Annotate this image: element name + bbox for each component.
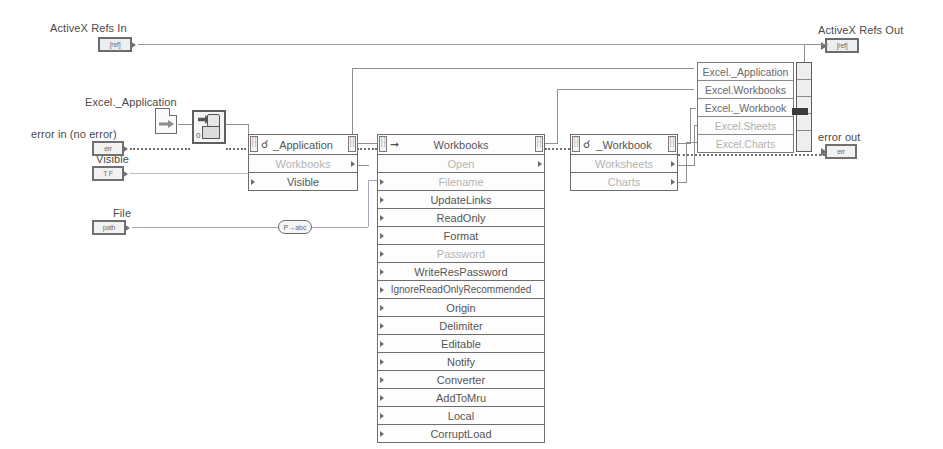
workbooks-row-password[interactable]: Password: [378, 245, 544, 263]
wire-worksheets-riser: [694, 125, 695, 166]
activex-class-list-constant[interactable]: Excel._Application Excel.Workbooks Excel…: [697, 62, 794, 153]
property-node-icon: ☌: [583, 138, 597, 150]
terminal-out[interactable]: [351, 161, 355, 167]
workbooks-row-converter-label: Converter: [437, 374, 485, 386]
application-row-visible-label: Visible: [287, 176, 319, 188]
terminal-in[interactable]: [380, 287, 384, 293]
excel-application-class-constant[interactable]: [155, 108, 177, 134]
doc-corner-fold: [169, 108, 177, 116]
activex-refs-in-terminal[interactable]: [ref]: [98, 37, 132, 52]
workbooks-row-updatelinks-label: UpdateLinks: [430, 194, 491, 206]
workbooks-row-corruptload[interactable]: CorruptLoad: [378, 425, 544, 442]
bundle-tick: [797, 96, 811, 97]
workbooks-row-open[interactable]: Open: [378, 155, 544, 173]
workbook-row-charts-label: Charts: [608, 176, 640, 188]
workbooks-row-readonly[interactable]: ReadOnly: [378, 209, 544, 227]
node-ref-out-terminal[interactable]: [ ][ ]: [668, 136, 676, 152]
workbooks-row-updatelinks[interactable]: UpdateLinks: [378, 191, 544, 209]
error-out-terminal[interactable]: err: [825, 144, 857, 159]
wire-application-to-workbooks-ref: [357, 143, 377, 144]
path-glyph: path: [94, 222, 124, 233]
class-list-item-label: Excel.Sheets: [715, 120, 776, 132]
wire-workbook-refout: [678, 143, 690, 144]
class-list-item-excel-application[interactable]: Excel._Application: [698, 63, 793, 81]
node-ref-in-terminal[interactable]: [ ][ ]: [250, 136, 258, 152]
application-row-visible[interactable]: Visible: [249, 173, 357, 190]
terminal-out[interactable]: [538, 161, 542, 167]
terminal-out[interactable]: [671, 161, 675, 167]
wire-workbook-to-classlist: [690, 108, 696, 109]
path-to-string-node[interactable]: P→abc: [278, 220, 312, 234]
workbooks-row-delimiter[interactable]: Delimiter: [378, 317, 544, 335]
terminal-in[interactable]: [380, 341, 384, 347]
workbooks-row-local[interactable]: Local: [378, 407, 544, 425]
workbooks-row-writerespassword[interactable]: WriteResPassword: [378, 263, 544, 281]
workbooks-row-addtomru[interactable]: AddToMru: [378, 389, 544, 407]
node-ref-out-terminal[interactable]: [ ][ ]: [535, 136, 543, 152]
terminal-in[interactable]: [380, 377, 384, 383]
application-property-node[interactable]: [ ][ ] ☌ _Application [ ][ ] Workbooks V…: [248, 134, 358, 191]
boolean-glyph: T F: [94, 168, 122, 179]
machine-digit-glyph: 0: [196, 132, 200, 140]
workbook-row-worksheets[interactable]: Worksheets: [571, 155, 677, 173]
application-row-workbooks[interactable]: Workbooks: [249, 155, 357, 173]
class-list-item-excel-charts[interactable]: Excel.Charts: [698, 135, 793, 152]
workbooks-node-header: [ ][ ] ➞ Workbooks [ ][ ]: [378, 135, 544, 155]
error-out-label: error out: [818, 131, 860, 143]
workbooks-row-origin[interactable]: Origin: [378, 299, 544, 317]
workbooks-row-format[interactable]: Format: [378, 227, 544, 245]
terminal-out[interactable]: [671, 179, 675, 185]
excel-application-label: Excel._Application: [85, 96, 177, 108]
terminal-in[interactable]: [380, 251, 384, 257]
build-array-node[interactable]: [796, 62, 812, 152]
wire-app-to-classlist: [352, 68, 694, 69]
terminal-in[interactable]: [380, 179, 384, 185]
terminal-in[interactable]: [380, 413, 384, 419]
class-list-item-excel-workbooks[interactable]: Excel.Workbooks: [698, 81, 793, 99]
wire-workbooks-prop-out: [357, 165, 369, 166]
workbook-property-node[interactable]: [ ][ ] ☌ _Workbook [ ][ ] Worksheets Cha…: [570, 134, 678, 191]
workbooks-row-writerespassword-label: WriteResPassword: [414, 266, 507, 278]
refnum-glyph: [ref]: [827, 40, 857, 51]
activex-refs-out-terminal[interactable]: [ref]: [825, 38, 859, 53]
visible-terminal[interactable]: T F: [92, 166, 124, 181]
node-ref-in-terminal[interactable]: [ ][ ]: [379, 136, 387, 152]
workbooks-row-notify-label: Notify: [447, 356, 475, 368]
terminal-in[interactable]: [380, 431, 384, 437]
workbooks-row-filename[interactable]: Filename: [378, 173, 544, 191]
terminal-in[interactable]: [380, 215, 384, 221]
class-list-item-excel-workbook[interactable]: Excel._Workbook: [698, 99, 793, 117]
workbooks-row-editable[interactable]: Editable: [378, 335, 544, 353]
file-path-terminal[interactable]: path: [92, 220, 126, 235]
node-ref-out-terminal[interactable]: [ ][ ]: [348, 136, 356, 152]
terminal-in[interactable]: [380, 305, 384, 311]
automation-object-icon: [202, 126, 220, 139]
workbooks-row-ignorereadonlyrecommended[interactable]: IgnoreReadOnlyRecommended: [378, 281, 544, 299]
terminal-in[interactable]: [251, 179, 255, 185]
terminal-in[interactable]: [380, 197, 384, 203]
workbooks-row-password-label: Password: [437, 248, 485, 260]
arrow-right-icon: [159, 120, 174, 128]
bundle-arrow-icon: [792, 108, 808, 115]
workbooks-row-notify[interactable]: Notify: [378, 353, 544, 371]
workbooks-row-open-label: Open: [448, 158, 475, 170]
terminal-in[interactable]: [380, 323, 384, 329]
wire-class-const-to-open: [178, 124, 192, 125]
class-list-item-excel-sheets[interactable]: Excel.Sheets: [698, 117, 793, 135]
file-label: File: [113, 207, 131, 219]
terminal-in[interactable]: [380, 233, 384, 239]
workbook-row-charts[interactable]: Charts: [571, 173, 677, 190]
wire-charts-riser: [686, 142, 687, 183]
node-ref-in-terminal[interactable]: [ ][ ]: [572, 136, 580, 152]
wire-open-to-application-ref: [226, 124, 248, 125]
automation-open-node[interactable]: 0: [192, 110, 226, 144]
workbooks-row-editable-label: Editable: [441, 338, 481, 350]
terminal-in[interactable]: [380, 359, 384, 365]
activex-refs-out-label: ActiveX Refs Out: [818, 24, 903, 36]
terminal-in[interactable]: [380, 269, 384, 275]
workbooks-invoke-node[interactable]: [ ][ ] ➞ Workbooks [ ][ ] Open Filename …: [377, 134, 545, 443]
terminal-in[interactable]: [380, 395, 384, 401]
bundle-tick: [797, 79, 811, 80]
error-in-terminal[interactable]: err: [92, 141, 124, 156]
workbooks-row-converter[interactable]: Converter: [378, 371, 544, 389]
